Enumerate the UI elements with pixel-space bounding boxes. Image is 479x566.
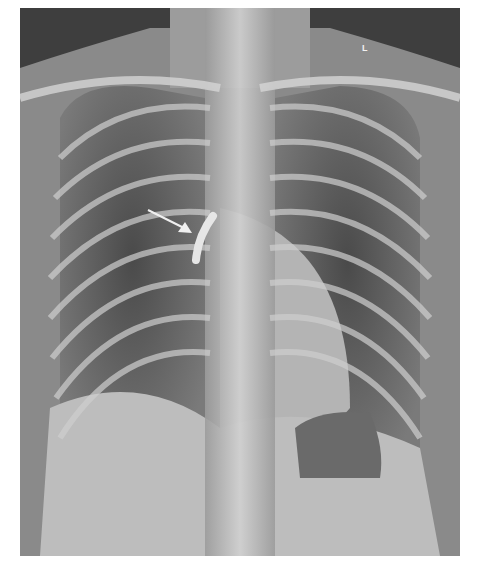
side-marker-label: L (362, 43, 368, 53)
xray-graphic (20, 8, 460, 556)
chest-xray-image: L (20, 8, 460, 556)
